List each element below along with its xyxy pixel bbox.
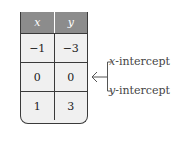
table-header: x y [21,12,87,33]
xy-table: x y −1 −3 0 0 1 3 [20,12,88,124]
cell-y: −3 [54,34,88,62]
y-intercept-label: y-intercept [109,84,170,97]
cell-x: 1 [21,92,54,120]
table-row-intercept: 0 0 [21,62,87,91]
cell-x: 0 [21,63,54,91]
cell-x: −1 [21,34,54,62]
y-intercept-text: -intercept [115,84,170,97]
table-row: −1 −3 [21,33,87,62]
x-intercept-text: -intercept [115,55,170,68]
x-intercept-label: x-intercept [109,55,170,68]
table-row: 1 3 [21,91,87,120]
cell-y: 3 [54,92,88,120]
header-x: x [21,12,54,33]
header-y: y [54,12,88,33]
cell-y: 0 [54,63,88,91]
